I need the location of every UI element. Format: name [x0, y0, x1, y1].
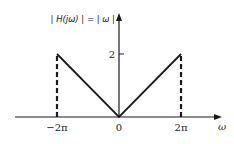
x-axis-arrow: [214, 114, 222, 120]
x-tick-label: 2π: [175, 122, 188, 133]
chart-title: | H(jω) | = | ω |: [51, 14, 115, 24]
y-tick-label: 2: [109, 49, 115, 60]
magnitude-response-chart: 2−2π02π | H(jω) | = | ω | ω: [0, 0, 234, 144]
x-tick-label: 0: [116, 122, 122, 133]
y-axis-arrow: [116, 13, 122, 21]
x-axis-label: ω: [218, 121, 226, 132]
x-tick-label: −2π: [46, 122, 68, 133]
